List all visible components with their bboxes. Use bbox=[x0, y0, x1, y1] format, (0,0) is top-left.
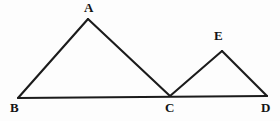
vertex-label-e: E bbox=[214, 29, 223, 42]
vertex-label-a: A bbox=[84, 1, 93, 14]
segment-ed bbox=[222, 51, 267, 96]
geometry-figure: A E B C D bbox=[0, 0, 280, 121]
segment-ac bbox=[88, 19, 170, 96]
segment-ce bbox=[170, 51, 222, 96]
segment-ba bbox=[18, 19, 88, 98]
vertex-label-d: D bbox=[261, 101, 270, 114]
vertex-label-c: C bbox=[165, 101, 174, 114]
figure-canvas bbox=[0, 0, 280, 121]
vertex-label-b: B bbox=[10, 101, 19, 114]
segment-bd bbox=[18, 96, 267, 98]
